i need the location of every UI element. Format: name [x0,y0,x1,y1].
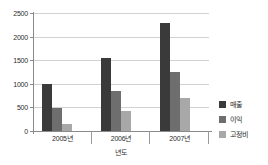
legend-label: 이익 [230,114,242,124]
legend-label: 매출 [230,99,242,109]
bar-group [42,13,72,131]
x-tick-label: 2007년 [150,133,209,143]
bar-group [160,13,190,131]
y-tick-mark [30,37,33,38]
bar [160,23,170,131]
bar [52,108,62,131]
x-tick-label: 2005년 [33,133,92,143]
y-tick-mark [30,107,33,108]
y-tick-label: 2500 [13,10,28,17]
x-tick-label: 2006년 [92,133,151,143]
plot-region: 05001000150020002500 2005년2006년2007년 년도 [0,0,215,165]
bar [42,84,52,131]
y-tick-mark [30,13,33,14]
y-tick-mark [30,60,33,61]
bar [101,58,111,131]
bar-group [101,13,131,131]
bar [111,91,121,131]
legend-item: 이익 [219,114,247,124]
bar [170,72,180,131]
legend-label: 고정비 [230,129,247,139]
legend-item: 고정비 [219,129,247,139]
legend-swatch-icon [219,131,226,138]
bar [121,111,131,131]
y-tick-mark [30,84,33,85]
chart-legend: 매출이익고정비 [219,99,247,139]
legend-swatch-icon [219,116,226,123]
y-tick-label: 2000 [13,33,28,40]
x-axis-title: 년도 [33,147,209,157]
y-tick-label: 1000 [13,80,28,87]
y-tick-label: 1500 [13,57,28,64]
legend-item: 매출 [219,99,247,109]
bar [180,98,190,131]
y-tick-label: 500 [17,104,28,111]
bar-chart-figure: 05001000150020002500 2005년2006년2007년 년도 … [0,0,268,165]
legend-swatch-icon [219,101,226,108]
bar [62,124,72,131]
y-axis-line [33,12,34,134]
y-tick-label: 0 [24,128,28,135]
